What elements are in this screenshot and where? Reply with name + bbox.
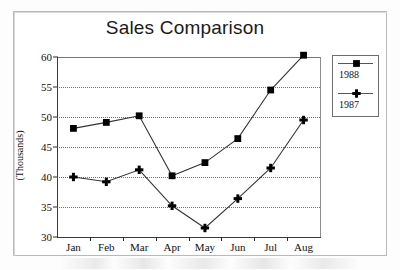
x-axis-tick-mark	[189, 237, 190, 241]
y-axis-tick-label: 60	[41, 51, 52, 63]
chart-legend[interactable]: 19881987	[332, 55, 379, 117]
square-marker-icon	[169, 172, 176, 179]
square-marker-icon	[136, 112, 143, 119]
x-axis-tick-mark	[123, 237, 124, 241]
square-marker-icon	[267, 87, 274, 94]
y-axis-tick-label: 35	[41, 201, 52, 213]
y-axis-tick-label: 55	[41, 81, 52, 93]
x-axis-tick-mark	[221, 237, 222, 241]
y-axis-tick-label: 40	[41, 171, 52, 183]
series-line	[73, 120, 303, 228]
x-axis-tick-label: Jan	[66, 241, 81, 253]
x-axis-tick-label: May	[195, 241, 215, 253]
plot-area: 30354045505560 JanFebMarAprMayJunJulAug	[57, 57, 320, 237]
y-axis-tick-label: 45	[41, 141, 52, 153]
plot-border-right	[320, 57, 321, 238]
x-axis-tick-label: Jul	[264, 241, 277, 253]
square-marker-icon	[353, 60, 360, 67]
x-axis-tick-label: Aug	[294, 241, 313, 253]
legend-item-1988[interactable]: 1988	[333, 58, 378, 81]
legend-label: 1987	[333, 99, 378, 111]
legend-swatch	[333, 88, 378, 99]
square-marker-icon	[234, 135, 241, 142]
square-marker-icon	[202, 159, 209, 166]
chart-title: Sales Comparison	[70, 17, 300, 39]
plus-marker-icon	[102, 178, 110, 186]
plus-marker-icon	[69, 173, 77, 181]
plus-marker-icon	[299, 116, 307, 124]
series-group	[57, 57, 320, 237]
y-axis-tick-label: 50	[41, 111, 52, 123]
x-axis-tick-mark	[156, 237, 157, 241]
series-line	[73, 55, 303, 176]
y-axis-tick-label: 30	[41, 231, 52, 243]
x-axis-tick-label: Mar	[130, 241, 148, 253]
square-marker-icon	[300, 52, 307, 59]
y-axis-title: (Thousands)	[14, 111, 25, 201]
series-1988	[70, 52, 307, 179]
x-axis-tick-mark	[90, 237, 91, 241]
square-marker-icon	[103, 119, 110, 126]
plus-marker-icon	[352, 89, 360, 97]
legend-swatch	[333, 58, 378, 69]
x-axis-tick-mark	[254, 237, 255, 241]
x-axis-tick-mark	[287, 237, 288, 241]
square-marker-icon	[70, 125, 77, 132]
scan-artifact	[60, 258, 360, 269]
x-axis-tick-label: Jun	[230, 241, 245, 253]
plus-marker-icon	[333, 88, 380, 99]
series-1987	[69, 116, 308, 232]
square-marker-icon	[333, 58, 380, 69]
x-axis-tick-label: Feb	[98, 241, 115, 253]
chart-page: Sales Comparison (Thousands) 30354045505…	[0, 0, 400, 270]
legend-label: 1988	[333, 69, 378, 81]
x-axis-tick-label: Apr	[164, 241, 181, 253]
legend-item-1987[interactable]: 1987	[333, 88, 378, 111]
